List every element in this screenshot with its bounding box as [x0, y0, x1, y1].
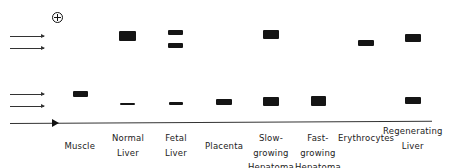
protein-band [168, 43, 183, 48]
lane-label-line: Muscle [65, 139, 96, 154]
lane-label: RegeneratingLiver [383, 124, 443, 153]
protein-band [405, 97, 421, 104]
origin-baseline [10, 121, 432, 124]
migration-arrow-icon [10, 94, 44, 95]
lane-label-line: Normal [112, 131, 144, 146]
lane-label-line: Liver [165, 146, 187, 161]
lane-label-line: Placenta [205, 139, 243, 154]
lane-label-line: Slow- [248, 131, 294, 146]
lane-label: Fast-growingHepatoma [295, 131, 341, 168]
anode-plus-icon [52, 12, 63, 23]
lane-label-line: growing [248, 146, 294, 161]
protein-band [263, 30, 279, 39]
lane-label: FetalLiver [165, 131, 187, 160]
origin-arrowhead-icon [52, 119, 59, 127]
lane-label: Slow-growingHepatoma [248, 131, 294, 168]
migration-arrow-icon [10, 36, 44, 37]
lane-label-line: growing [295, 146, 341, 161]
lane-label: NormalLiver [112, 131, 144, 160]
protein-band [263, 97, 279, 106]
protein-band [216, 99, 232, 105]
lane-label: Placenta [205, 139, 243, 154]
migration-arrow-icon [10, 48, 44, 49]
protein-band [169, 102, 183, 105]
protein-band [120, 103, 135, 105]
migration-arrow-icon [10, 106, 44, 107]
protein-band [73, 91, 88, 97]
lane-label-line: Liver [383, 139, 443, 154]
lane-label-line: Hepatoma [248, 160, 294, 168]
protein-band [119, 31, 136, 41]
lane-label-line: Fetal [165, 131, 187, 146]
protein-band [405, 34, 421, 42]
lane-label-line: Liver [112, 146, 144, 161]
protein-band [168, 30, 183, 35]
lane-label-line: Hepatoma [295, 160, 341, 168]
lane-label-line: Fast- [295, 131, 341, 146]
lane-label: Muscle [65, 139, 96, 154]
protein-band [358, 40, 374, 46]
lane-label-line: Regenerating [383, 124, 443, 139]
protein-band [311, 96, 326, 106]
